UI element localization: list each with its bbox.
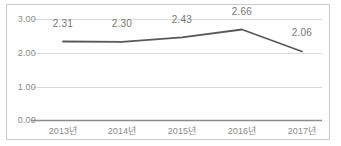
point-label-2015: 2.43 [160, 14, 204, 25]
xtick-label-2014: 2014년 [92, 124, 152, 137]
point-label-2013: 2.31 [41, 18, 85, 29]
point-label-2017: 2.06 [280, 27, 324, 38]
ytick-label-1-00: 1.00 [8, 82, 36, 92]
xtick-label-2017: 2017년 [272, 124, 332, 137]
xtick-label-2013: 2013년 [33, 124, 93, 137]
point-label-2014: 2.30 [100, 18, 144, 29]
ytick-label-2-00: 2.00 [8, 48, 36, 58]
point-label-2016: 2.66 [220, 6, 264, 17]
xtick-label-2015: 2015년 [152, 124, 212, 137]
plot-area: 3.00 2.00 1.00 0.00 2.31 2.30 2.43 2.66 … [0, 0, 341, 146]
data-series-line [63, 30, 302, 52]
xtick-label-2016: 2016년 [212, 124, 272, 137]
ytick-label-3-00: 3.00 [8, 14, 36, 24]
ytick-label-0-00: 0.00 [8, 115, 36, 125]
line-chart: 3.00 2.00 1.00 0.00 2.31 2.30 2.43 2.66 … [0, 0, 341, 146]
